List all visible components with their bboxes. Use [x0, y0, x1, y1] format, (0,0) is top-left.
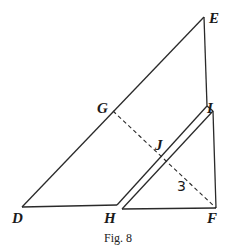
label-D: D	[11, 210, 23, 226]
geometry-figure: E G I J D H F 3 Fig. 8	[0, 0, 237, 250]
angle-label-3: 3	[177, 178, 186, 194]
segment-GF-dashed	[113, 111, 216, 208]
figure-caption: Fig. 8	[104, 231, 132, 245]
label-F: F	[206, 210, 217, 226]
label-J: J	[154, 137, 163, 153]
segment-HI-outer	[117, 106, 207, 205]
label-G: G	[97, 100, 108, 116]
segment-EI	[204, 17, 207, 106]
segment-HI-inner	[122, 111, 213, 209]
label-E: E	[208, 10, 219, 26]
segment-DH	[22, 205, 117, 207]
label-H: H	[103, 210, 117, 226]
segment-IF	[213, 111, 216, 208]
label-I: I	[206, 100, 214, 116]
segment-HF	[122, 208, 216, 209]
